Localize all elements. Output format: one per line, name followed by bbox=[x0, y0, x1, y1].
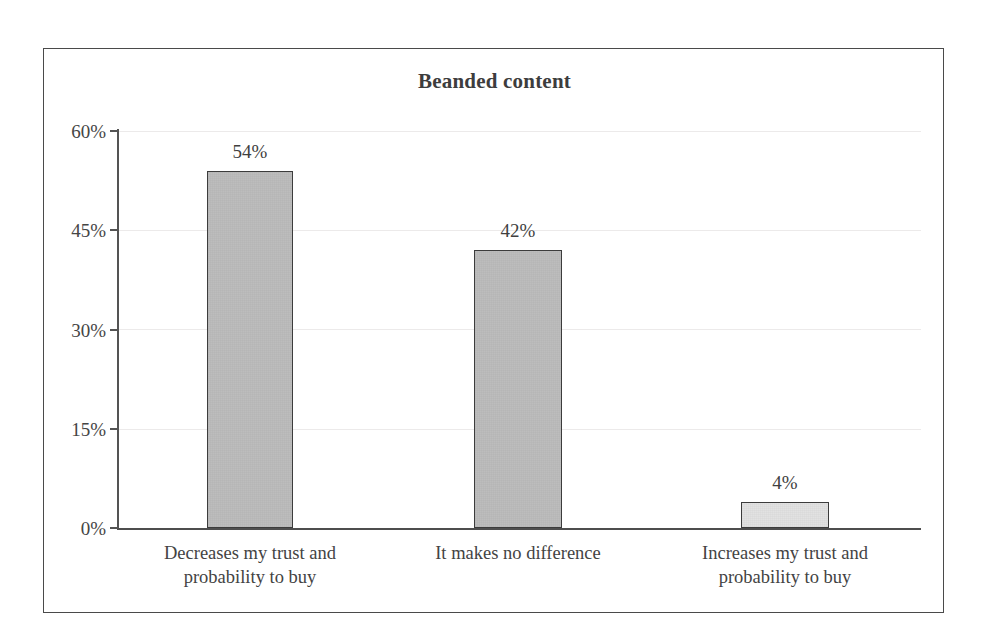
y-tick-label-15: 15% bbox=[44, 420, 106, 439]
x-category-label-1-line-2: probability to buy bbox=[120, 565, 380, 589]
y-tick-label-60: 60% bbox=[44, 122, 106, 141]
bar-fill-texture bbox=[208, 172, 292, 527]
y-axis-tick-labels: 60% 45% 30% 15% 0% bbox=[44, 49, 106, 614]
x-category-label-1-line-1: Decreases my trust and bbox=[120, 541, 380, 565]
y-tick-label-45: 45% bbox=[44, 221, 106, 240]
y-tick-label-30: 30% bbox=[44, 321, 106, 340]
bar-value-label-1: 54% bbox=[187, 142, 313, 161]
x-axis-line bbox=[117, 528, 921, 530]
x-category-label-1: Decreases my trust and probability to bu… bbox=[120, 541, 380, 590]
gridline-60 bbox=[117, 131, 921, 132]
y-tick-mark-0 bbox=[110, 527, 118, 529]
bar-decreases-trust bbox=[207, 171, 293, 528]
bar-fill-texture bbox=[475, 251, 561, 527]
y-tick-label-0: 0% bbox=[44, 519, 106, 538]
y-tick-mark-30 bbox=[110, 329, 118, 331]
x-category-label-2-line-1: It makes no difference bbox=[388, 541, 648, 565]
chart-figure: Beanded content 60% 45% 30% 15% 0% 54% bbox=[0, 0, 986, 637]
chart-title: Beanded content bbox=[44, 69, 945, 94]
bar-increases-trust bbox=[741, 502, 829, 528]
bar-no-difference bbox=[474, 250, 562, 528]
y-tick-mark-45 bbox=[110, 229, 118, 231]
bar-fill-texture bbox=[742, 503, 828, 527]
y-tick-mark-15 bbox=[110, 428, 118, 430]
bar-value-label-2: 42% bbox=[455, 221, 581, 240]
bar-value-label-3: 4% bbox=[722, 473, 848, 492]
x-category-label-3: Increases my trust and probability to bu… bbox=[655, 541, 915, 590]
x-category-label-3-line-1: Increases my trust and bbox=[655, 541, 915, 565]
x-category-label-2: It makes no difference bbox=[388, 541, 648, 565]
y-tick-mark-60 bbox=[110, 130, 118, 132]
chart-frame: Beanded content 60% 45% 30% 15% 0% 54% bbox=[43, 48, 944, 613]
x-category-label-3-line-2: probability to buy bbox=[655, 565, 915, 589]
